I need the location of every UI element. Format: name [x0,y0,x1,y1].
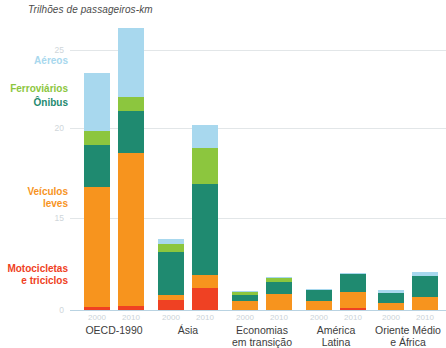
bar-segment-ônibus [412,276,438,296]
y-axis-title: Trilhões de passageiros-km [28,4,153,15]
bar-segment-aéreos [192,125,218,148]
bar-segment-ônibus [158,252,184,296]
bar-segment-motocicletas-e-triciclos [158,300,184,310]
bar-segment-ônibus [118,111,144,153]
bar-segment-ferroviários [158,244,184,251]
bar-segment-motocicletas-e-triciclos [118,306,144,310]
bar-segment-veículos-leves [306,301,332,310]
legend-item-onibus: Ônibus [0,97,68,109]
x-tick-year-2010: 2010 [264,313,294,322]
legend-item-motocicletas-line1: Motocicletas [0,263,68,275]
legend-item-motocicletas-line2: e triciclos [0,275,68,287]
bar-segment-ônibus [340,274,366,292]
x-tick-year-2010: 2010 [338,313,368,322]
x-tick-year-2000: 2000 [82,313,112,322]
bar-segment-ônibus [266,282,292,294]
bar-segment-veículos-leves [118,153,144,306]
x-tick-year-2000: 2000 [156,313,186,322]
bar-segment-ferroviários [84,131,110,145]
x-tick-year-2000: 2000 [230,313,260,322]
bar-segment-veículos-leves [266,294,292,310]
group-label-oriente-médio-e-áfrica: Oriente Médioe África [353,324,446,348]
bar-segment-veículos-leves [378,303,404,310]
bar-ásia-2000[interactable] [158,239,184,310]
x-tick-year-2010: 2010 [116,313,146,322]
group-label-line1: Oriente Médio [353,324,446,336]
gridline-0 [70,310,446,311]
y-tick-15: 15 [34,213,64,223]
legend-item-ferroviarios: Ferroviários [0,83,68,95]
bar-segment-motocicletas-e-triciclos [192,288,218,310]
bar-segment-veículos-leves [84,187,110,307]
bar-segment-ferroviários [192,148,218,184]
bar-segment-veículos-leves [192,275,218,288]
y-tick-20: 20 [34,123,64,133]
bar-segment-veículos-leves [232,301,258,310]
x-tick-year-2010: 2010 [410,313,440,322]
legend-item-veiculos-leves-line2: leves [0,198,68,210]
bar-segment-ônibus [84,145,110,186]
bar-ásia-2010[interactable] [192,125,218,310]
bar-oriente-médio-e-áfrica-2000[interactable] [378,290,404,310]
bar-segment-aéreos [118,28,144,97]
bar-segment-veículos-leves [340,292,366,308]
bar-segment-ônibus [192,184,218,275]
x-tick-year-2000: 2000 [376,313,406,322]
bar-oecd-1990-2000[interactable] [84,73,110,310]
bar-oriente-médio-e-áfrica-2010[interactable] [412,272,438,310]
bar-oecd-1990-2010[interactable] [118,28,144,310]
bar-segment-ônibus [378,293,404,303]
bar-segment-ferroviários [118,97,144,111]
bar-segment-ônibus [232,295,258,302]
bar-segment-veículos-leves [412,297,438,310]
y-tick-0: 0 [34,305,64,315]
x-tick-year-2000: 2000 [304,313,334,322]
bar-segment-aéreos [84,73,110,131]
bar-américa-latina-2000[interactable] [306,289,332,310]
bar-economias-em-transição-2000[interactable] [232,291,258,310]
legend-item-veiculos-leves-line1: Veículos [0,186,68,198]
bar-américa-latina-2010[interactable] [340,273,366,310]
bar-segment-motocicletas-e-triciclos [340,308,366,310]
x-tick-year-2010: 2010 [190,313,220,322]
bar-economias-em-transição-2010[interactable] [266,277,292,310]
legend-item-aereos: Aéreos [0,55,68,67]
y-tick-25: 25 [34,45,64,55]
group-label-line2: e África [353,336,446,348]
bar-segment-motocicletas-e-triciclos [84,307,110,310]
bar-segment-ônibus [306,290,332,302]
plot-area: 252015020002010OECD-199020002010Ásia2000… [70,28,446,312]
